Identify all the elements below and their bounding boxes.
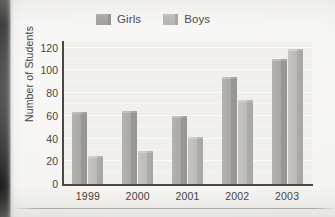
bar-girls-1999 (72, 112, 87, 184)
x-tick-label: 2002 (225, 190, 249, 202)
bar-top-bevel (288, 49, 303, 51)
bar-top-bevel (172, 116, 187, 118)
y-tick-label: 80 (46, 87, 58, 99)
x-tick-label: 1999 (76, 190, 100, 202)
bar-face (272, 59, 287, 184)
bar-top-bevel (72, 112, 87, 114)
y-tick-label: 40 (46, 133, 58, 145)
bar-girls-2001 (172, 116, 187, 184)
bar-top-bevel (238, 100, 253, 102)
bar-top-bevel (88, 156, 103, 158)
plot-area-wrapper: 020406080100120 19992000200120022003 (63, 42, 312, 185)
bar-boys-2001 (188, 137, 203, 184)
legend-entry-girls: Girls (96, 13, 141, 25)
bar-boys-2003 (288, 49, 303, 184)
x-tick-label: 2003 (275, 190, 299, 202)
bar-face (222, 77, 237, 184)
bar-boys-1999 (88, 156, 103, 184)
x-axis-line (62, 184, 313, 186)
bar-face (138, 151, 153, 184)
bar-face (188, 137, 203, 184)
bar-girls-2000 (122, 111, 137, 184)
legend-label-girls: Girls (117, 13, 141, 25)
y-axis-title: Number of Students (23, 9, 35, 139)
bar-girls-2003 (272, 59, 287, 184)
girls-swatch-icon (96, 14, 111, 25)
bar-top-bevel (122, 111, 137, 113)
bar-face (238, 100, 253, 184)
bar-boys-2002 (238, 100, 253, 184)
bar-boys-2000 (138, 151, 153, 184)
bar-face (172, 116, 187, 184)
bar-chart: Girls Boys Number of Students 0204060801… (0, 0, 335, 217)
bar-top-bevel (222, 77, 237, 79)
boys-swatch-icon (163, 14, 178, 25)
bar-top-bevel (138, 151, 153, 153)
plot-area (63, 42, 312, 184)
x-tick-label: 2000 (126, 190, 150, 202)
y-tick-label: 120 (40, 42, 58, 54)
y-tick-label: 20 (46, 155, 58, 167)
bar-face (72, 112, 87, 184)
y-tick-label: 0 (52, 178, 58, 190)
chart-legend: Girls Boys (96, 11, 210, 27)
x-tick-label: 2001 (175, 190, 199, 202)
legend-label-boys: Boys (184, 13, 210, 25)
y-axis-line (62, 41, 64, 185)
bar-face (88, 156, 103, 184)
bar-face (122, 111, 137, 184)
y-tick-label: 100 (40, 64, 58, 76)
legend-entry-boys: Boys (163, 13, 210, 25)
bar-face (288, 49, 303, 184)
bar-girls-2002 (222, 77, 237, 184)
bar-top-bevel (272, 59, 287, 61)
bar-top-bevel (188, 137, 203, 139)
gridline (63, 47, 312, 48)
y-tick-label: 60 (46, 110, 58, 122)
